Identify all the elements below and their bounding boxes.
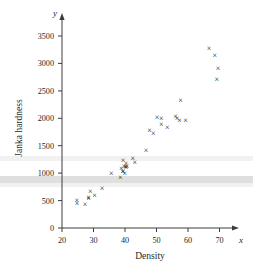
y-axis-variable-symbol: y bbox=[52, 8, 57, 18]
y-tick-label-0: 0 bbox=[50, 224, 54, 233]
x-tick-label-30: 30 bbox=[89, 236, 97, 245]
x-axis-variable-symbol: x bbox=[238, 235, 243, 245]
x-axis-ticks: 20 30 40 50 60 70 bbox=[58, 228, 224, 245]
data-point-marker: × bbox=[178, 96, 183, 105]
data-point-marker: × bbox=[159, 114, 164, 123]
y-tick-label-1000: 1000 bbox=[38, 169, 54, 178]
data-point-marker: × bbox=[151, 129, 156, 138]
x-tick-label-50: 50 bbox=[152, 236, 160, 245]
data-point-marker: × bbox=[133, 158, 138, 167]
y-tick-label-3000: 3000 bbox=[38, 59, 54, 68]
x-axis-title: Density bbox=[135, 251, 165, 261]
data-point-marker: × bbox=[165, 123, 170, 132]
data-point-marker: × bbox=[177, 116, 182, 125]
y-tick-label-3500: 3500 bbox=[38, 32, 54, 41]
x-axis-arrowhead bbox=[232, 225, 239, 230]
y-axis-ticks: 0 500 1000 1500 2000 2500 3000 3500 bbox=[38, 32, 62, 233]
data-point-marker: × bbox=[109, 169, 114, 178]
y-tick-label-2000: 2000 bbox=[38, 114, 54, 123]
x-tick-label-60: 60 bbox=[184, 236, 192, 245]
data-point-marker: × bbox=[216, 64, 221, 73]
janka-hardness-scatter-figure: y x 0 500 1000 1500 2000 2500 3000 3500 bbox=[0, 0, 253, 273]
y-tick-label-500: 500 bbox=[42, 197, 54, 206]
y-tick-label-1500: 1500 bbox=[38, 142, 54, 151]
data-point-marker: × bbox=[92, 191, 97, 200]
x-tick-label-40: 40 bbox=[121, 236, 129, 245]
scatter-plot-svg: y x 0 500 1000 1500 2000 2500 3000 3500 bbox=[0, 0, 253, 273]
data-point-marker: × bbox=[75, 199, 80, 208]
y-axis-title: Janka hardness bbox=[14, 99, 24, 157]
data-point-marker: × bbox=[125, 162, 130, 171]
data-point-marker: × bbox=[144, 146, 149, 155]
y-tick-label-2500: 2500 bbox=[38, 87, 54, 96]
data-point-marker: × bbox=[100, 184, 105, 193]
data-point-marker: × bbox=[213, 51, 218, 60]
data-point-marker: × bbox=[183, 116, 188, 125]
data-point-marker: × bbox=[214, 75, 219, 84]
data-point-marker: × bbox=[207, 44, 212, 53]
x-tick-label-70: 70 bbox=[215, 236, 223, 245]
y-axis-arrowhead bbox=[59, 13, 64, 20]
x-tick-label-20: 20 bbox=[58, 236, 66, 245]
